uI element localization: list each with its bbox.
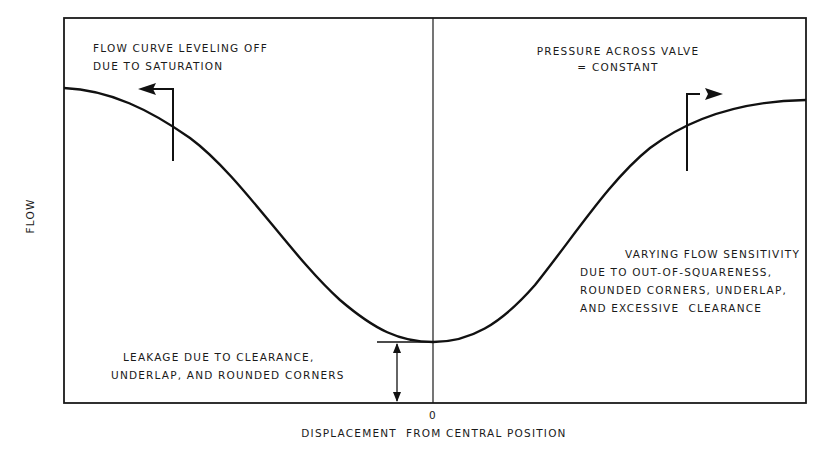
plot-frame [64,18,806,403]
sensitivity-annotation-line3: ROUNDED CORNERS, UNDERLAP, [580,284,787,296]
saturation-annotation-line1: FLOW CURVE LEVELING OFF [93,42,268,54]
leakage-dimension-arrow-icon [377,342,433,402]
y-axis-label: FLOW [24,199,36,234]
sensitivity-annotation-line1: VARYING FLOW SENSITIVITY [625,248,800,260]
saturation-annotation-line2: DUE TO SATURATION [93,60,223,72]
pressure-annotation-line1: PRESSURE ACROSS VALVE [537,45,700,57]
leakage-annotation-line1: LEAKAGE DUE TO CLEARANCE, [123,351,314,363]
leakage-annotation-line2: UNDERLAP, AND ROUNDED CORNERS [111,369,345,381]
pressure-pointer-arrow-icon [687,88,723,171]
x-axis-label: DISPLACEMENT FROM CENTRAL POSITION [301,427,566,439]
flow-displacement-diagram: FLOW 0 DISPLACEMENT FROM CENTRAL POSITIO… [0,0,828,451]
sensitivity-annotation-line2: DUE TO OUT-OF-SQUARENESS, [580,266,772,278]
sensitivity-annotation-line4: AND EXCESSIVE CLEARANCE [580,302,762,314]
pressure-annotation-line2: = CONSTANT [577,61,658,73]
x-axis-zero-label: 0 [429,409,437,421]
